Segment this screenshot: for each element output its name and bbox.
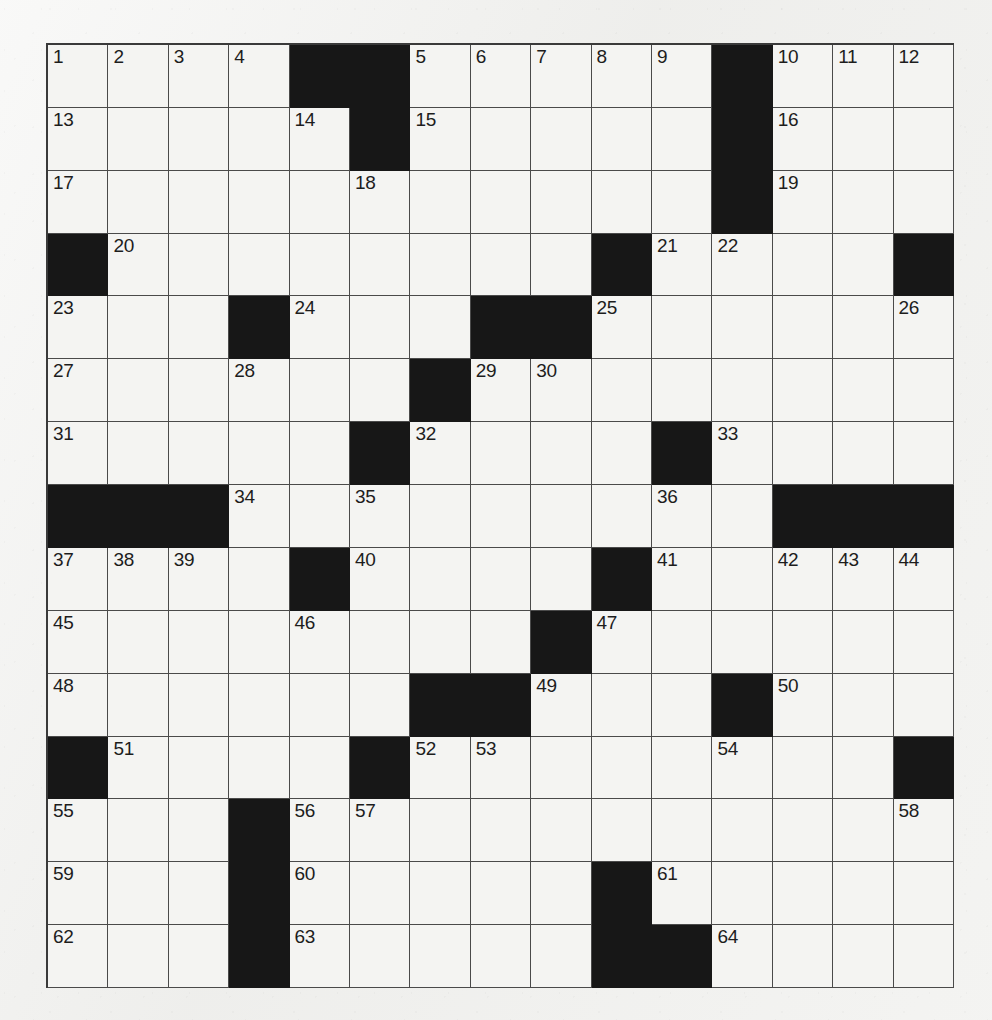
crossword-cell[interactable]: 26 [894,296,954,359]
crossword-cell[interactable] [894,862,954,925]
crossword-cell[interactable] [108,862,168,925]
crossword-cell[interactable]: 43 [833,548,893,611]
crossword-cell[interactable] [108,799,168,862]
crossword-cell[interactable]: 57 [350,799,410,862]
crossword-cell[interactable] [410,611,470,674]
crossword-cell[interactable] [290,234,350,297]
crossword-cell[interactable] [410,862,470,925]
crossword-cell[interactable]: 4 [229,45,289,108]
crossword-cell[interactable]: 21 [652,234,712,297]
crossword-cell[interactable] [894,422,954,485]
crossword-cell[interactable] [169,737,229,800]
crossword-cell[interactable] [773,359,833,422]
crossword-cell[interactable] [410,296,470,359]
crossword-cell[interactable] [833,359,893,422]
crossword-cell[interactable]: 34 [229,485,289,548]
crossword-cell[interactable] [169,799,229,862]
crossword-cell[interactable] [833,737,893,800]
crossword-cell[interactable]: 15 [410,108,470,171]
crossword-cell[interactable] [350,611,410,674]
crossword-cell[interactable]: 6 [471,45,531,108]
crossword-cell[interactable] [108,171,168,234]
crossword-cell[interactable] [773,799,833,862]
crossword-cell[interactable] [531,548,591,611]
crossword-cell[interactable] [350,359,410,422]
crossword-cell[interactable] [471,925,531,988]
crossword-cell[interactable] [833,422,893,485]
crossword-cell[interactable] [229,108,289,171]
crossword-cell[interactable] [833,171,893,234]
crossword-cell[interactable]: 58 [894,799,954,862]
crossword-cell[interactable] [652,108,712,171]
crossword-cell[interactable] [592,359,652,422]
crossword-cell[interactable] [350,862,410,925]
crossword-cell[interactable] [290,674,350,737]
crossword-cell[interactable] [652,171,712,234]
crossword-cell[interactable] [108,108,168,171]
crossword-cell[interactable] [712,296,772,359]
crossword-cell[interactable] [471,234,531,297]
crossword-cell[interactable] [531,799,591,862]
crossword-cell[interactable] [410,234,470,297]
crossword-cell[interactable]: 10 [773,45,833,108]
crossword-cell[interactable] [108,296,168,359]
crossword-cell[interactable]: 55 [48,799,108,862]
crossword-cell[interactable]: 37 [48,548,108,611]
crossword-cell[interactable] [169,611,229,674]
crossword-cell[interactable]: 22 [712,234,772,297]
crossword-cell[interactable]: 9 [652,45,712,108]
crossword-cell[interactable]: 59 [48,862,108,925]
crossword-cell[interactable] [894,171,954,234]
crossword-cell[interactable] [229,611,289,674]
crossword-cell[interactable] [531,737,591,800]
crossword-cell[interactable] [773,234,833,297]
crossword-cell[interactable]: 50 [773,674,833,737]
crossword-cell[interactable]: 2 [108,45,168,108]
crossword-cell[interactable] [350,296,410,359]
crossword-cell[interactable] [652,674,712,737]
crossword-cell[interactable] [471,108,531,171]
crossword-cell[interactable] [169,925,229,988]
crossword-cell[interactable]: 63 [290,925,350,988]
crossword-cell[interactable] [773,611,833,674]
crossword-cell[interactable] [471,548,531,611]
crossword-cell[interactable] [773,862,833,925]
crossword-cell[interactable] [592,422,652,485]
crossword-cell[interactable]: 39 [169,548,229,611]
crossword-cell[interactable] [229,674,289,737]
crossword-cell[interactable] [592,108,652,171]
crossword-cell[interactable] [350,234,410,297]
crossword-cell[interactable]: 25 [592,296,652,359]
crossword-cell[interactable] [833,108,893,171]
crossword-cell[interactable] [108,422,168,485]
crossword-cell[interactable] [108,611,168,674]
crossword-cell[interactable] [592,485,652,548]
crossword-cell[interactable] [712,359,772,422]
crossword-cell[interactable]: 38 [108,548,168,611]
crossword-cell[interactable] [410,799,470,862]
crossword-cell[interactable]: 47 [592,611,652,674]
crossword-cell[interactable]: 23 [48,296,108,359]
crossword-cell[interactable]: 24 [290,296,350,359]
crossword-grid[interactable]: 1234567891011121314151617181920212223242… [46,43,954,988]
crossword-cell[interactable] [531,422,591,485]
crossword-cell[interactable]: 28 [229,359,289,422]
crossword-cell[interactable] [531,925,591,988]
crossword-cell[interactable] [350,925,410,988]
crossword-cell[interactable] [229,737,289,800]
crossword-cell[interactable] [592,737,652,800]
crossword-cell[interactable] [471,611,531,674]
crossword-cell[interactable] [531,108,591,171]
crossword-cell[interactable] [229,234,289,297]
crossword-cell[interactable] [712,485,772,548]
crossword-cell[interactable] [833,611,893,674]
crossword-cell[interactable] [592,799,652,862]
crossword-cell[interactable] [712,548,772,611]
crossword-cell[interactable] [290,737,350,800]
crossword-cell[interactable]: 60 [290,862,350,925]
crossword-cell[interactable] [592,674,652,737]
crossword-cell[interactable]: 11 [833,45,893,108]
crossword-cell[interactable] [833,799,893,862]
crossword-cell[interactable] [531,234,591,297]
crossword-cell[interactable] [290,171,350,234]
